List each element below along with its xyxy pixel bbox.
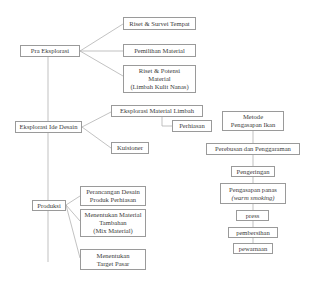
node-pembersihan: pembersihan bbox=[228, 227, 278, 238]
node-eksplorasi-ide-desain: Eksplorasi Ide Desain bbox=[15, 121, 82, 133]
node-pra-eksplorasi: Pra Eksplorasi bbox=[20, 45, 80, 57]
node-menentukan-material: Menentukan Material Tambahan (Mix Materi… bbox=[80, 209, 146, 237]
node-produksi: Produksi bbox=[32, 200, 66, 211]
node-metode-pengasapan-ikan: Metode Pengasapan Ikan bbox=[222, 111, 284, 131]
node-eksplorasi-material-limbah: Eksplorasi Material Limbah bbox=[111, 105, 203, 117]
process-diagram: Pra Eksplorasi Eksplorasi Ide Desain Pro… bbox=[0, 0, 311, 285]
node-pemilihan-material: Pemilihan Material bbox=[123, 44, 196, 57]
node-kuisioner: Kuisioner bbox=[111, 142, 149, 154]
node-press: press bbox=[236, 210, 269, 221]
node-pengeringan: Pengeringan bbox=[231, 166, 275, 177]
node-perhiasan: Perhiasan bbox=[172, 120, 212, 132]
node-perebusan-penggaraman: Perebusan dan Penggaraman bbox=[206, 143, 300, 155]
node-perancangan-desain: Perancangan Desain Produk Perhiasan bbox=[80, 186, 146, 206]
node-menentukan-target-pasar: Menentukan Target Pasar bbox=[80, 249, 146, 270]
node-riset-potensi-material: Riset & Potensi Material (Limbah Kulit N… bbox=[123, 65, 196, 93]
warm-smoking-label: (warm smoking) bbox=[231, 194, 274, 202]
node-riset-survei-tempat: Riset & Survei Tempat bbox=[123, 17, 196, 30]
node-pewarnaan: pewarnaan bbox=[233, 243, 273, 254]
node-pengasapan-panas: Pengasapan panas (warm smoking) bbox=[220, 183, 286, 204]
pengasapan-panas-label: Pengasapan panas bbox=[229, 186, 277, 194]
